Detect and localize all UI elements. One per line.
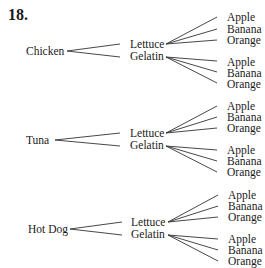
side-label: Gelatin bbox=[130, 50, 164, 62]
dessert-label: Orange bbox=[228, 211, 262, 223]
side-label: Lettuce bbox=[130, 38, 164, 50]
side-label: Gelatin bbox=[130, 139, 164, 151]
side-label: Lettuce bbox=[131, 216, 165, 228]
dessert-label: Orange bbox=[227, 122, 261, 134]
dessert-label: Orange bbox=[227, 166, 261, 178]
side-label: Gelatin bbox=[131, 228, 165, 240]
side-label: Lettuce bbox=[130, 127, 164, 139]
main-dish-label: Tuna bbox=[26, 134, 49, 146]
main-dish-label: Chicken bbox=[26, 45, 64, 57]
dessert-label: Apple bbox=[227, 11, 255, 23]
dessert-label: Orange bbox=[227, 78, 261, 90]
main-dish-label: Hot Dog bbox=[28, 223, 68, 235]
dessert-label: Orange bbox=[228, 255, 262, 267]
dessert-label: Orange bbox=[227, 34, 261, 46]
